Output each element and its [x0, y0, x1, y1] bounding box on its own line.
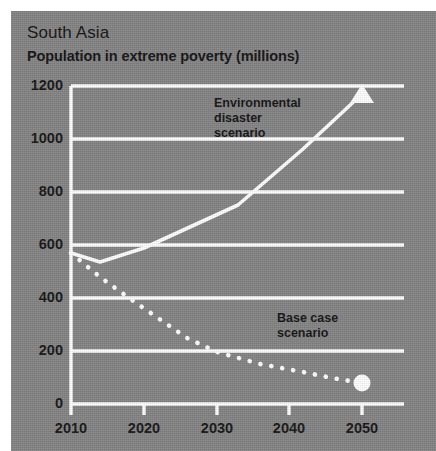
xtick-label-2020: 2020 — [114, 420, 174, 436]
ytick-label-200: 200 — [11, 342, 63, 358]
ytick-label-800: 800 — [11, 183, 63, 199]
circle-marker-2050 — [354, 375, 371, 392]
xtick-label-2030: 2030 — [187, 420, 247, 436]
ytick-label-0: 0 — [11, 395, 63, 411]
ytick-label-400: 400 — [11, 289, 63, 305]
base-case-scenario-label: Base case scenario — [277, 311, 338, 341]
ytick-label-1000: 1000 — [11, 130, 63, 146]
xtick-label-2040: 2040 — [259, 420, 319, 436]
plot-area — [11, 11, 436, 451]
annotation-line: scenario — [277, 326, 338, 341]
ytick-label-600: 600 — [11, 236, 63, 252]
annotation-line: Environmental — [214, 96, 301, 111]
annotation-line: scenario — [214, 126, 301, 141]
xtick-label-2010: 2010 — [41, 420, 101, 436]
annotation-line: Base case — [277, 311, 338, 326]
environmental-disaster-scenario-label: Environmental disaster scenario — [214, 96, 301, 141]
ytick-label-1200: 1200 — [11, 77, 63, 93]
chart-figure: South Asia Population in extreme poverty… — [0, 0, 436, 451]
xtick-label-2050: 2050 — [332, 420, 392, 436]
chart-plate: South Asia Population in extreme poverty… — [11, 11, 436, 451]
annotation-line: disaster — [214, 111, 301, 126]
